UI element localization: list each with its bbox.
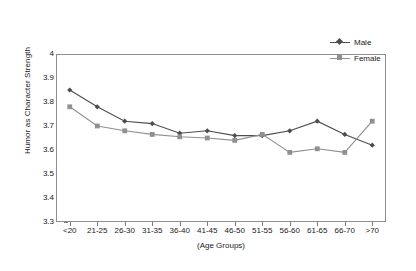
data-point-female	[67, 104, 72, 109]
y-axis-ticks: 43.93.83.73.63.53.43.3	[12, 0, 54, 271]
data-point-female	[205, 136, 210, 141]
x-axis-ticks: <2021-2526-3031-3536-4041-4546-5051-5556…	[56, 226, 386, 240]
x-axis-title: (Age Groups)	[56, 241, 386, 250]
x-tick-mark	[262, 222, 263, 226]
x-tick-mark	[345, 222, 346, 226]
x-tick-mark	[97, 222, 98, 226]
data-point-female	[232, 138, 237, 143]
y-tick-label: 3.6	[18, 146, 54, 154]
x-tick-label: 26-30	[115, 226, 135, 235]
x-tick-label: 56-60	[280, 226, 300, 235]
x-tick-mark	[372, 222, 373, 226]
x-tick-mark	[70, 222, 71, 226]
y-tick-label: 3.8	[18, 98, 54, 106]
x-tick-label: 36-40	[170, 226, 190, 235]
data-point-female	[122, 128, 127, 133]
data-point-male	[232, 133, 237, 138]
legend-item-female: Female	[330, 50, 400, 66]
data-point-male	[67, 87, 72, 92]
data-point-male	[342, 132, 347, 137]
x-tick-label: 41-45	[197, 226, 217, 235]
y-tick-label: 3.5	[18, 170, 54, 178]
data-point-male	[287, 128, 292, 133]
legend-line-female	[330, 58, 350, 59]
data-point-female	[177, 134, 182, 139]
data-point-female	[342, 150, 347, 155]
y-tick-label: 3.4	[18, 194, 54, 202]
y-tick-label: 3.9	[18, 74, 54, 82]
x-tick-label: 51-55	[252, 226, 272, 235]
data-point-female	[260, 132, 265, 137]
x-tick-mark	[180, 222, 181, 226]
data-point-female	[287, 150, 292, 155]
chart-figure: Humor as Character Strength 43.93.83.73.…	[0, 0, 416, 271]
y-tick-label: 3.3	[18, 218, 54, 226]
y-tick-label: 4	[18, 50, 54, 58]
x-tick-mark	[125, 222, 126, 226]
chart-legend: Male Female	[330, 34, 400, 66]
x-tick-label: 46-50	[225, 226, 245, 235]
legend-label-male: Male	[354, 38, 371, 47]
series-line-male	[70, 90, 373, 145]
data-point-female	[315, 146, 320, 151]
x-tick-mark	[152, 222, 153, 226]
data-point-male	[122, 119, 127, 124]
data-point-male	[315, 119, 320, 124]
data-point-male	[370, 143, 375, 148]
data-point-male	[95, 104, 100, 109]
x-tick-mark	[235, 222, 236, 226]
legend-marker-female	[337, 55, 342, 60]
x-tick-label: >70	[365, 226, 379, 235]
x-tick-mark	[207, 222, 208, 226]
legend-marker-male	[336, 38, 343, 45]
legend-line-male	[330, 42, 350, 43]
data-point-male	[205, 128, 210, 133]
legend-label-female: Female	[354, 54, 381, 63]
x-tick-label: 66-70	[335, 226, 355, 235]
x-tick-label: 31-35	[142, 226, 162, 235]
y-tick-label: 3.7	[18, 122, 54, 130]
x-tick-mark	[317, 222, 318, 226]
x-tick-label: 21-25	[87, 226, 107, 235]
legend-item-male: Male	[330, 34, 400, 50]
x-tick-label: 61-65	[307, 226, 327, 235]
x-tick-label: <20	[63, 226, 77, 235]
data-point-female	[150, 132, 155, 137]
series-line-female	[70, 107, 373, 153]
y-tick-mark	[64, 222, 68, 223]
x-tick-mark	[290, 222, 291, 226]
data-point-female	[370, 119, 375, 124]
data-point-female	[95, 124, 100, 129]
data-point-male	[150, 121, 155, 126]
plot-series-layer	[56, 54, 386, 222]
